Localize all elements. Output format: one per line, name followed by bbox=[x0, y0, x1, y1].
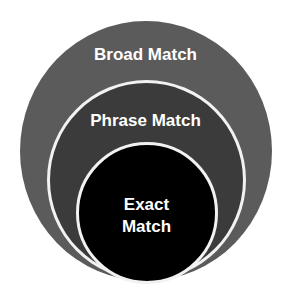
phrase-match-label: Phrase Match bbox=[0, 111, 291, 131]
exact-match-label: Exact Match bbox=[0, 194, 291, 238]
exact-match-label-line2: Match bbox=[0, 216, 291, 238]
exact-match-label-line1: Exact bbox=[0, 194, 291, 216]
broad-match-label: Broad Match bbox=[0, 45, 291, 65]
